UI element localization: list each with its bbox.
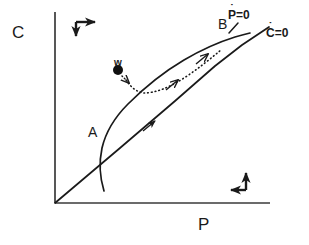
- equilibrium-label-b: B: [218, 17, 227, 31]
- arrow-on-dotted-upper: [196, 54, 208, 64]
- state-label-w: w: [114, 58, 122, 68]
- equilibrium-label-a: A: [88, 125, 97, 139]
- p-nullcline-label: P ˙ =0: [228, 9, 250, 21]
- x-axis-label: P: [198, 216, 209, 233]
- c-nullcline-label: C ˙ =0: [266, 27, 288, 39]
- arrow-on-dotted-lower: [166, 80, 178, 90]
- y-axis-label: C: [12, 24, 24, 41]
- bottom-right-direction-marker: [231, 173, 246, 190]
- trajectory-dotted-path: [126, 50, 221, 93]
- c-dot-glyph: C ˙: [266, 27, 275, 39]
- figure-canvas: C P A B w P ˙ =0 C ˙ =0: [0, 0, 309, 245]
- p-overdot: ˙: [230, 3, 234, 14]
- p-dot-glyph: P ˙: [228, 9, 236, 21]
- p-nullcline-equals-zero: =0: [236, 8, 250, 22]
- b-pointer-tick: [229, 23, 238, 33]
- top-left-direction-marker: [76, 22, 95, 36]
- c-nullcline-equals-zero: =0: [275, 26, 289, 40]
- c-overdot: ˙: [268, 21, 272, 32]
- axis-group: [55, 12, 270, 203]
- phase-plane-svg: [0, 0, 309, 245]
- c-nullcline-curve: [55, 27, 269, 203]
